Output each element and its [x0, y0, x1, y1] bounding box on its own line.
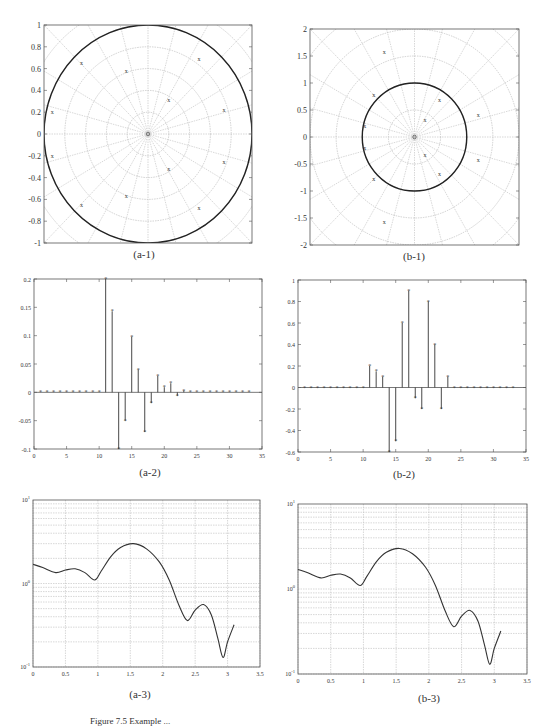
svg-text:0.1: 0.1 [24, 333, 32, 339]
svg-text:*: * [59, 389, 62, 395]
svg-text:x: x [51, 153, 54, 159]
svg-text:-1: -1 [300, 187, 307, 196]
svg-text:x: x [383, 49, 386, 55]
svg-text:0.15: 0.15 [21, 305, 32, 311]
panel-label-a-3: (a-3) [100, 688, 180, 700]
svg-text:*: * [336, 385, 339, 391]
svg-text:-1: -1 [34, 239, 41, 248]
svg-text:*: * [362, 385, 365, 391]
svg-text:20: 20 [425, 456, 431, 462]
svg-text:*: * [355, 385, 358, 391]
svg-text:*: * [202, 389, 205, 395]
svg-text:1: 1 [37, 21, 41, 30]
svg-text:-0.6: -0.6 [28, 195, 41, 204]
svg-text:0.5: 0.5 [297, 106, 307, 115]
panel-label-b-3: (b-3) [389, 692, 469, 704]
svg-text:*: * [182, 388, 185, 394]
svg-text:3: 3 [226, 671, 229, 677]
svg-text:*: * [420, 406, 423, 412]
svg-text:0.2: 0.2 [24, 277, 32, 283]
svg-text:*: * [98, 389, 101, 395]
svg-text:0.6: 0.6 [288, 321, 296, 327]
panel-label-a-2: (a-2) [110, 466, 190, 478]
svg-text:2: 2 [427, 678, 430, 684]
svg-text:35: 35 [259, 453, 265, 459]
svg-text:x: x [222, 107, 225, 113]
svg-text:*: * [78, 389, 81, 395]
svg-text:*: * [215, 389, 218, 395]
svg-text:0.8: 0.8 [288, 299, 296, 305]
svg-text:-0.1: -0.1 [22, 447, 32, 453]
svg-text:2.5: 2.5 [191, 671, 199, 677]
svg-text:0: 0 [33, 453, 36, 459]
svg-text:0.05: 0.05 [21, 362, 32, 368]
svg-text:-1.5: -1.5 [294, 214, 307, 223]
panel-label-b-1: (b-1) [374, 250, 454, 262]
svg-text:*: * [511, 385, 514, 391]
plot-area: 00.511.522.533.510110010-1 [20, 495, 264, 677]
plot-area: 00.511.522.533.510110010-1 [285, 499, 531, 684]
svg-text:*: * [303, 385, 306, 391]
svg-text:x: x [167, 166, 170, 172]
panel-a-1: xxxxxxxxxxxx10.80.60.40.20-0.2-0.4-0.6-0… [0, 0, 276, 270]
panel-a-2: *********************************0510152… [0, 270, 276, 480]
svg-text:35: 35 [523, 456, 529, 462]
svg-text:*: * [479, 385, 482, 391]
svg-text:*: * [505, 385, 508, 391]
svg-text:-2: -2 [300, 241, 307, 250]
svg-text:0: 0 [292, 385, 295, 391]
svg-text:x: x [80, 60, 83, 66]
svg-text:*: * [323, 385, 326, 391]
svg-text:*: * [85, 389, 88, 395]
svg-text:*: * [111, 308, 114, 314]
svg-text:*: * [72, 389, 75, 395]
svg-text:*: * [440, 406, 443, 412]
svg-text:30: 30 [226, 453, 232, 459]
svg-text:*: * [433, 342, 436, 348]
svg-text:1.5: 1.5 [127, 671, 135, 677]
svg-text:x: x [197, 56, 200, 62]
svg-text:-0.2: -0.2 [28, 152, 41, 161]
svg-text:*: * [208, 389, 211, 395]
panel-label-b-2: (b-2) [364, 468, 444, 480]
pole-zero-plot-b1: xxxxxxxxxxxx21.510.50-0.5-1-1.5-2 [276, 0, 553, 270]
svg-text:*: * [407, 288, 410, 294]
svg-text:*: * [195, 389, 198, 395]
svg-text:3: 3 [493, 678, 496, 684]
svg-text:*: * [368, 363, 371, 369]
svg-text:*: * [104, 276, 107, 282]
svg-text:100: 100 [22, 579, 31, 587]
svg-text:x: x [51, 109, 54, 115]
svg-text:*: * [137, 367, 140, 373]
svg-text:x: x [423, 117, 426, 123]
svg-text:25: 25 [458, 456, 464, 462]
svg-text:*: * [124, 418, 127, 424]
svg-text:*: * [381, 374, 384, 380]
panel-b-2: *********************************0510152… [276, 270, 553, 480]
svg-text:x: x [438, 171, 441, 177]
svg-text:x: x [372, 92, 375, 98]
svg-text:0: 0 [28, 390, 31, 396]
svg-text:*: * [163, 384, 166, 390]
figure-caption: Figure 7.5 Example ... [90, 716, 170, 726]
svg-text:*: * [453, 385, 456, 391]
svg-text:15: 15 [129, 453, 135, 459]
svg-text:-0.4: -0.4 [28, 174, 41, 183]
svg-text:x: x [383, 219, 386, 225]
svg-text:*: * [189, 389, 192, 395]
svg-text:*: * [485, 385, 488, 391]
stem-plot-b2: *********************************0510152… [276, 270, 553, 480]
svg-text:x: x [363, 145, 366, 151]
svg-text:2: 2 [303, 25, 307, 34]
svg-text:*: * [52, 389, 55, 395]
svg-text:5: 5 [329, 456, 332, 462]
svg-text:*: * [427, 299, 430, 305]
svg-text:*: * [39, 389, 42, 395]
svg-text:*: * [388, 449, 391, 455]
svg-text:*: * [498, 385, 501, 391]
svg-text:*: * [117, 446, 120, 452]
svg-text:x: x [477, 112, 480, 118]
svg-text:0: 0 [297, 678, 300, 684]
svg-text:*: * [241, 389, 244, 395]
svg-text:*: * [65, 389, 68, 395]
